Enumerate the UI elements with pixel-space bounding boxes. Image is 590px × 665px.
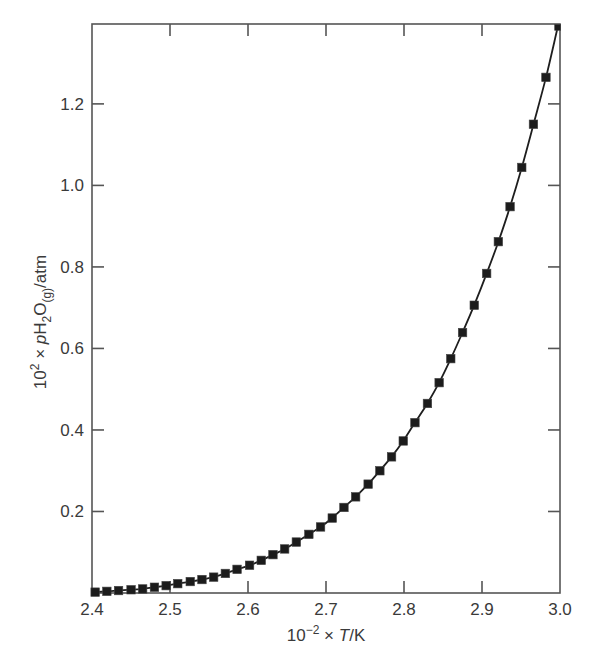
- y-axis: 0.20.40.60.81.01.2: [60, 95, 560, 522]
- x-tick-label: 2.6: [236, 600, 260, 619]
- data-point-marker: [364, 480, 373, 489]
- y-tick-label: 0.6: [60, 339, 84, 358]
- y-tick-label: 0.4: [60, 421, 84, 440]
- data-point-marker: [150, 583, 159, 592]
- data-point-marker: [138, 585, 147, 594]
- data-point-marker: [494, 237, 503, 246]
- data-point-marker: [127, 586, 136, 595]
- data-point-marker: [518, 163, 527, 172]
- data-point-marker: [340, 503, 349, 512]
- data-point-marker: [411, 418, 420, 427]
- x-axis: 2.42.52.62.72.82.93.0: [80, 24, 572, 619]
- data-point-marker: [316, 523, 325, 532]
- x-tick-label: 2.9: [470, 600, 494, 619]
- data-point-marker: [280, 545, 289, 554]
- y-tick-label: 1.0: [60, 176, 84, 195]
- data-point-marker: [506, 202, 515, 211]
- data-point-marker: [435, 378, 444, 387]
- data-point-marker: [209, 573, 218, 582]
- data-point-marker: [91, 588, 100, 597]
- fit-curve: [92, 27, 558, 592]
- vapor-pressure-chart: 2.42.52.62.72.82.93.0 0.20.40.60.81.01.2…: [0, 0, 590, 665]
- x-tick-label: 3.0: [548, 600, 572, 619]
- data-point-marker: [458, 328, 467, 337]
- y-tick-label: 0.8: [60, 258, 84, 277]
- data-point-marker: [221, 569, 230, 578]
- data-point-marker: [269, 550, 278, 559]
- x-tick-label: 2.7: [314, 600, 338, 619]
- data-point-marker: [529, 120, 538, 129]
- x-tick-label: 2.8: [392, 600, 416, 619]
- y-axis-title: 102 × pH2O(g)/atm: [28, 255, 54, 389]
- data-point-marker: [257, 556, 266, 565]
- data-point-marker: [423, 399, 432, 408]
- data-point-marker: [351, 493, 360, 502]
- data-point-marker: [399, 437, 408, 446]
- x-tick-label: 2.5: [158, 600, 182, 619]
- x-tick-label: 2.4: [80, 600, 104, 619]
- data-point-marker: [114, 586, 123, 595]
- data-point-marker: [376, 467, 385, 476]
- data-series: [91, 24, 561, 596]
- data-point-marker: [387, 453, 396, 462]
- data-point-marker: [542, 73, 551, 82]
- data-point-marker: [245, 561, 254, 570]
- data-point-marker: [186, 577, 195, 586]
- data-point-marker: [174, 579, 183, 588]
- plot-area: [92, 24, 560, 593]
- data-point-marker: [103, 587, 112, 596]
- y-tick-label: 0.2: [60, 502, 84, 521]
- data-point-marker: [555, 24, 561, 30]
- data-point-marker: [470, 301, 479, 310]
- data-point-marker: [292, 538, 301, 547]
- plot-frame: [92, 24, 560, 593]
- data-point-marker: [482, 269, 491, 278]
- data-point-marker: [233, 565, 242, 574]
- data-point-marker: [305, 530, 314, 539]
- data-point-marker: [447, 354, 456, 363]
- y-tick-label: 1.2: [60, 95, 84, 114]
- data-point-marker: [328, 514, 337, 523]
- data-point-marker: [162, 581, 171, 590]
- x-axis-title: 10−2 × T/K: [287, 623, 366, 645]
- data-point-marker: [198, 575, 207, 584]
